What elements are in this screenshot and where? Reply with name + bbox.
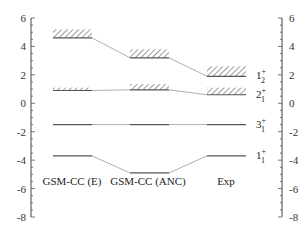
- levels: 1+22+13+11+1: [53, 29, 267, 173]
- y-tick-label: 6: [21, 12, 27, 24]
- column-label-gsm-cc-e: GSM-CC (E): [43, 175, 102, 188]
- y-tick-label: 4: [21, 40, 27, 52]
- state-label: 1+2: [256, 67, 267, 85]
- y-tick-label: -4: [289, 154, 299, 166]
- state-label: 2+1: [256, 86, 267, 104]
- state-label: 1+1: [256, 147, 267, 165]
- level-2-1--: 2+1: [53, 84, 267, 104]
- y-tick-label: 6: [289, 12, 295, 24]
- y-tick-label: 2: [21, 69, 27, 81]
- y-tick-label: -8: [17, 211, 27, 223]
- left-axis: -8-6-4-20246: [17, 12, 35, 223]
- column-label-gsm-cc-anc: GSM-CC (ANC): [110, 175, 186, 188]
- y-tick-label: -2: [17, 126, 26, 138]
- right-axis: -8-6-4-20246: [278, 12, 299, 223]
- y-tick-label: -6: [17, 183, 27, 195]
- level-1-2--: 1+2: [53, 29, 267, 85]
- y-tick-label: 4: [289, 40, 295, 52]
- state-label: 3+1: [256, 116, 267, 134]
- level-scheme-chart: -8-6-4-20246 -8-6-4-20246 1+22+13+11+1 G…: [0, 0, 307, 235]
- y-tick-label: -6: [289, 183, 299, 195]
- level-3-1--: 3+1: [53, 116, 267, 134]
- y-tick-label: 0: [21, 97, 27, 109]
- level-1-1--: 1+1: [53, 147, 267, 173]
- y-tick-label: -2: [289, 126, 298, 138]
- y-tick-label: 2: [289, 69, 295, 81]
- y-tick-label: 0: [289, 97, 295, 109]
- column-labels: GSM-CC (E) GSM-CC (ANC) Exp: [43, 175, 236, 188]
- column-label-exp: Exp: [217, 175, 235, 187]
- y-tick-label: -4: [17, 154, 27, 166]
- y-tick-label: -8: [289, 211, 299, 223]
